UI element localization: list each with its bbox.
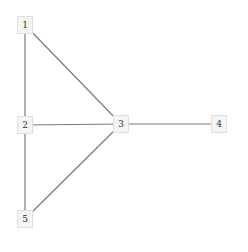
node-5: 5 (17, 210, 33, 228)
node-label: 3 (118, 119, 124, 129)
edge-1-3 (25, 25, 121, 124)
node-label: 5 (22, 214, 28, 224)
edge-3-5 (25, 124, 121, 219)
node-1: 1 (17, 16, 33, 34)
node-label: 1 (22, 20, 28, 30)
graph-diagram: 1 2 3 4 5 (0, 0, 248, 252)
node-label: 4 (216, 119, 222, 129)
node-4: 4 (211, 115, 227, 133)
node-label: 2 (22, 120, 28, 130)
node-3: 3 (113, 115, 129, 133)
edge-2-3 (25, 124, 121, 125)
node-2: 2 (17, 116, 33, 134)
